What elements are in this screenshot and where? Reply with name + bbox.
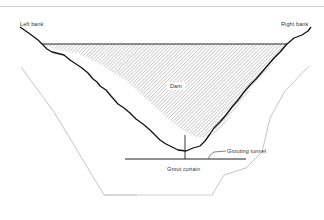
right-bank-label: Right bank [281, 21, 308, 27]
dam-body [42, 44, 287, 137]
grout-curtain-label: Grout curtain [167, 166, 200, 172]
diagram-canvas [0, 0, 324, 220]
left-bank-label: Left bank [20, 21, 44, 27]
dam-label: Dam [167, 82, 185, 90]
dam-diagram: Left bank Right bank Dam Grouting tunnel… [0, 0, 324, 220]
tunnel-leader [208, 151, 226, 159]
grouting-tunnel-label: Grouting tunnel [227, 148, 266, 154]
